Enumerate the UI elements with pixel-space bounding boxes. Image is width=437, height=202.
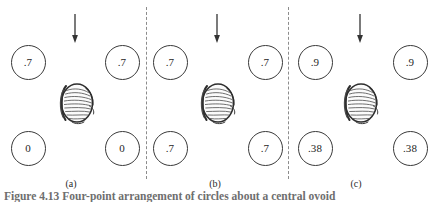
ovoid-figure-a xyxy=(55,78,97,128)
circle-value: .7 xyxy=(261,142,269,153)
down-arrow-icon-b xyxy=(210,14,224,44)
circle-value: .7 xyxy=(24,56,32,67)
value-circle[interactable]: .7 xyxy=(153,45,188,80)
value-circle[interactable]: .7 xyxy=(11,45,46,80)
circle-value: .7 xyxy=(261,56,269,67)
circle-value: 0 xyxy=(119,142,125,153)
circle-value: .9 xyxy=(311,56,319,67)
panel-a: .7 .7 0 0 xyxy=(0,0,146,178)
circle-value: .7 xyxy=(118,56,126,67)
circle-value: .9 xyxy=(406,56,414,67)
figure-container: .7 .7 0 0 xyxy=(0,0,437,202)
figure-caption: Figure 4.13 Four-point arrangement of ci… xyxy=(4,190,434,202)
value-circle[interactable]: 0 xyxy=(11,131,46,166)
circle-value: .38 xyxy=(308,142,322,153)
circle-value: .38 xyxy=(403,142,417,153)
value-circle[interactable]: .9 xyxy=(298,45,333,80)
value-circle[interactable]: .9 xyxy=(393,45,428,80)
panel-label-c: (c) xyxy=(350,178,361,189)
value-circle[interactable]: .38 xyxy=(298,131,333,166)
value-circle[interactable]: .7 xyxy=(248,131,283,166)
value-circle[interactable]: .7 xyxy=(248,45,283,80)
value-circle[interactable]: 0 xyxy=(105,131,140,166)
circle-value: .7 xyxy=(166,56,174,67)
circle-value: 0 xyxy=(25,142,31,153)
panel-label-b: (b) xyxy=(209,178,221,189)
ovoid-figure-c xyxy=(339,78,381,128)
down-arrow-icon-c xyxy=(353,14,367,44)
panel-b: .7 .7 .7 .7 xyxy=(146,0,288,178)
down-arrow-icon-a xyxy=(68,14,82,44)
ovoid-figure-b xyxy=(196,78,238,128)
circle-value: .7 xyxy=(166,142,174,153)
figure-caption-text: Figure 4.13 Four-point arrangement of ci… xyxy=(4,190,335,202)
panel-c: .9 .9 .38 .38 xyxy=(288,0,437,178)
panel-label-a: (a) xyxy=(65,178,76,189)
value-circle[interactable]: .7 xyxy=(153,131,188,166)
value-circle[interactable]: .7 xyxy=(105,45,140,80)
value-circle[interactable]: .38 xyxy=(393,131,428,166)
